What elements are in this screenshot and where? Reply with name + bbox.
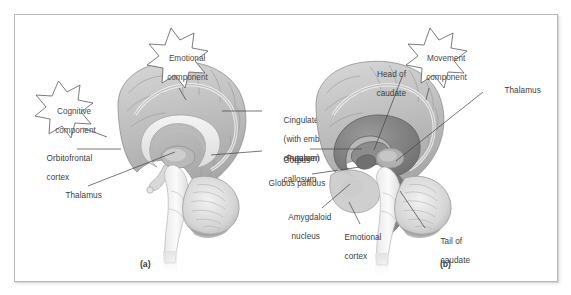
- thalamus-a: [161, 146, 195, 168]
- label-tail-of-caudate-line1: Tail of: [440, 237, 462, 246]
- panel-b: Movement component Head of caudate Thala…: [286, 15, 557, 281]
- label-orbitofrontal-cortex-line1: Orbitofrontal: [47, 154, 93, 163]
- label-putamen-line1: Putamen: [287, 154, 320, 163]
- label-amygdaloid-nucleus: Amygdaloid nucleus: [270, 203, 320, 251]
- panel-a: Cognitive component Emotional component …: [15, 15, 286, 281]
- label-thalamus-a-line1: Thalamus: [65, 191, 101, 200]
- label-head-of-caudate-line2: caudate: [377, 89, 407, 98]
- label-globus-pallidus: Globus pallidus: [250, 169, 308, 198]
- label-thalamus-b: Thalamus: [486, 76, 541, 105]
- label-amygdaloid-nucleus-line1: Amygdaloid: [288, 213, 331, 222]
- label-head-of-caudate-line1: Head of: [377, 70, 406, 79]
- callout-emotional-line2: component: [167, 73, 208, 82]
- callout-cognitive-component: Cognitive component: [37, 98, 93, 145]
- callout-movement-line1: Movement: [427, 54, 465, 63]
- callout-movement-component: Movement component: [408, 45, 466, 92]
- figure-root: Cognitive component Emotional component …: [0, 0, 571, 295]
- callout-emotional-line1: Emotional: [169, 54, 205, 63]
- caption-b: (b): [440, 259, 451, 269]
- label-emotional-cortex-line2: cortex: [345, 252, 368, 261]
- label-amygdaloid-nucleus-line2: nucleus: [291, 232, 320, 241]
- callout-emotional-component: Emotional component: [149, 45, 207, 92]
- label-emotional-cortex-line1: Emotional: [345, 233, 382, 242]
- figure-frame: Cognitive component Emotional component …: [14, 14, 558, 282]
- label-thalamus-a: Thalamus: [47, 181, 102, 210]
- caption-a: (a): [140, 259, 151, 269]
- callout-cognitive-line1: Cognitive: [57, 107, 91, 116]
- callout-movement-line2: component: [426, 73, 467, 82]
- cerebellum-a: [183, 176, 239, 238]
- label-emotional-cortex: Emotional cortex: [326, 223, 381, 271]
- label-thalamus-b-line1: Thalamus: [504, 86, 540, 95]
- temporal-lobe-b: [330, 170, 380, 213]
- label-head-of-caudate: Head of caudate: [354, 60, 406, 108]
- callout-cognitive-line2: component: [55, 126, 96, 135]
- label-globus-pallidus-line1: Globus pallidus: [269, 179, 326, 188]
